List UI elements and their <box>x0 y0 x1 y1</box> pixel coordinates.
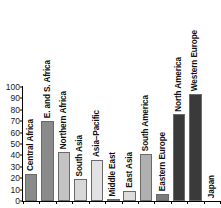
plot-area: 1009080706050403020100 Central AfricaE. … <box>23 87 220 201</box>
bar-category-label: Middle East <box>109 152 117 196</box>
bar-category-label: Central Africa <box>27 119 35 171</box>
bar[interactable] <box>107 199 119 201</box>
y-axis-tick-label: 40 <box>11 151 20 160</box>
bar-chart: 1009080706050403020100 Central AfricaE. … <box>0 0 221 208</box>
x-axis-tick-mark <box>72 201 73 204</box>
x-axis-tick-mark <box>39 201 40 204</box>
bar[interactable] <box>74 179 86 201</box>
bar-group[interactable]: Eastern Europe <box>156 87 168 201</box>
bar-group[interactable]: Middle East <box>107 87 119 201</box>
y-axis-tick-label: 70 <box>11 117 20 126</box>
bar-category-label: E. and S. Africa <box>44 60 52 118</box>
x-axis-tick-mark <box>122 201 123 204</box>
x-axis-tick-mark <box>23 201 24 204</box>
bar-group[interactable]: Central Africa <box>25 87 37 201</box>
bar[interactable] <box>123 191 135 201</box>
bar[interactable] <box>140 154 152 201</box>
y-axis-tick-label: 10 <box>11 185 20 194</box>
bar-group[interactable]: Japan <box>206 87 218 201</box>
x-axis-tick-mark <box>105 201 106 204</box>
x-axis-tick-mark <box>220 201 221 204</box>
bar-group[interactable]: East Asia <box>123 87 135 201</box>
bar-category-label: Japan <box>208 175 216 198</box>
y-axis-tick-label: 80 <box>11 106 20 115</box>
bar-category-label: Northern Africa <box>60 91 68 149</box>
bar[interactable] <box>156 194 168 201</box>
bar[interactable] <box>58 152 70 201</box>
bar[interactable] <box>91 160 103 201</box>
bar-group[interactable]: E. and S. Africa <box>41 87 53 201</box>
bar-group[interactable]: Northern Africa <box>58 87 70 201</box>
bar-category-label: Eastern Europe <box>158 132 166 191</box>
bar-group[interactable]: South Asia <box>74 87 86 201</box>
bar-category-label: Western Europe <box>191 30 199 91</box>
bar-category-label: Asia–Pacific <box>93 110 101 157</box>
x-axis-tick-mark <box>154 201 155 204</box>
x-axis-tick-mark <box>138 201 139 204</box>
bar-group[interactable]: North America <box>173 87 185 201</box>
bar-category-label: South America <box>142 95 150 151</box>
bar[interactable] <box>173 114 185 201</box>
x-axis-tick-mark <box>204 201 205 204</box>
bar-group[interactable]: Asia–Pacific <box>91 87 103 201</box>
bar[interactable] <box>25 174 37 201</box>
y-axis-tick-label: 30 <box>11 163 20 172</box>
x-axis-tick-mark <box>56 201 57 204</box>
bar-group[interactable]: South America <box>140 87 152 201</box>
bar-group[interactable]: Western Europe <box>189 87 201 201</box>
bar-category-label: East Asia <box>126 152 134 188</box>
x-axis-tick-mark <box>89 201 90 204</box>
x-axis-tick-mark <box>171 201 172 204</box>
bar-series: Central AfricaE. and S. AfricaNorthern A… <box>23 87 220 201</box>
x-axis-tick-mark <box>187 201 188 204</box>
bar-category-label: South Asia <box>76 135 84 176</box>
y-axis-tick-label: 20 <box>11 174 20 183</box>
y-axis-tick-label: 90 <box>11 94 20 103</box>
y-axis-tick-label: 60 <box>11 128 20 137</box>
bar[interactable] <box>41 121 53 201</box>
y-axis-tick-label: 100 <box>6 83 20 92</box>
bar[interactable] <box>189 94 201 201</box>
y-axis-tick-label: 50 <box>11 140 20 149</box>
bar-category-label: North America <box>175 57 183 112</box>
